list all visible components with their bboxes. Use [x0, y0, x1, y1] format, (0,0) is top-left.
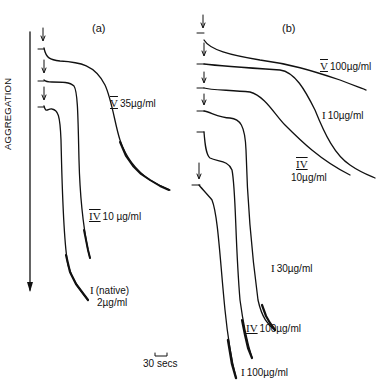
- label-b-IV-100: IV100µg/ml: [246, 322, 301, 334]
- label-b-IV-10-roman: IV: [296, 158, 310, 170]
- label-b-IV-10-conc: 10µg/ml: [291, 172, 327, 183]
- label-b-I-30: I30µg/ml: [271, 262, 312, 274]
- trace-b-IV-100: [204, 132, 252, 358]
- trace-b-IV-10: [204, 88, 350, 175]
- label-b-I-100: I100µg/ml: [241, 366, 288, 378]
- aggregation-figure: [0, 0, 389, 389]
- time-scale-bar: [155, 353, 167, 356]
- label-b-V-100: V100µg/ml: [320, 60, 371, 72]
- time-scale-label: 30 secs: [143, 358, 177, 369]
- label-b-I-10: I10µg/ml: [322, 109, 363, 121]
- label-a-I-native: I(native): [90, 284, 129, 296]
- trace-b-I-10: [204, 64, 375, 178]
- label-a-I-conc: 2µg/ml: [97, 297, 127, 308]
- panel-a-markers: [38, 28, 46, 107]
- trace-a-IV-10: [44, 80, 90, 258]
- panel-b-label: (b): [282, 22, 295, 34]
- label-a-IV: IV10 µg/ml: [89, 210, 141, 222]
- label-a-V: V35µg/ml: [110, 97, 156, 109]
- trace-a-V-35: [44, 48, 170, 190]
- y-axis-label: AGGREGATION: [2, 78, 13, 150]
- panel-a-label: (a): [92, 22, 105, 34]
